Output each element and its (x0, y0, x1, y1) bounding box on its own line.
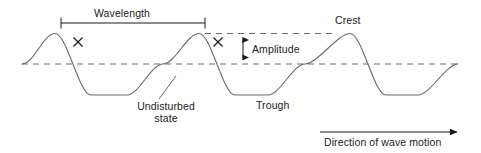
trough-label: Trough (256, 99, 289, 111)
wave-diagram: Wavelength Amplitude Crest Trough Undist… (0, 0, 481, 153)
wave-diagram-canvas (0, 0, 481, 153)
wave-curve (22, 34, 458, 96)
undisturbed-state-label: Undisturbed state (119, 100, 213, 124)
direction-of-wave-motion-label: Direction of wave motion (324, 136, 441, 148)
undisturbed-leader-line (159, 76, 176, 99)
x-mark-left (74, 38, 83, 47)
undisturbed-state-label-line1: Undisturbed (119, 100, 213, 112)
undisturbed-state-label-line2: state (119, 112, 213, 124)
amplitude-label: Amplitude (252, 43, 300, 55)
wavelength-bar (61, 18, 205, 29)
x-mark-right (214, 38, 223, 47)
crest-label: Crest (335, 14, 361, 26)
wavelength-label: Wavelength (94, 7, 150, 19)
